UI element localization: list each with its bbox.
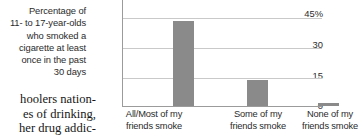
article-body-text: hoolers nation- es of drinking, her drug… (0, 92, 96, 136)
plot-area (122, 0, 322, 107)
caption-line: 11- to 17-year-olds (0, 17, 86, 29)
caption-line: once in the past (0, 54, 86, 66)
x-label-line: friends smoke (272, 121, 363, 133)
x-label-line: All/Most of my (92, 109, 216, 121)
body-text-line: her drug addic- (0, 121, 96, 136)
x-label-line: None of my (272, 109, 363, 121)
x-axis-category-label: None of my friends smoke (272, 109, 363, 132)
body-text-line: hoolers nation- (0, 92, 96, 107)
bar (173, 21, 194, 106)
caption-line: 30 days (0, 66, 86, 78)
x-axis-category-label: All/Most of my friends smoke (92, 109, 216, 132)
body-text-line: es of drinking, (0, 107, 96, 122)
caption-line: cigarette at least (0, 42, 86, 54)
bar (318, 103, 339, 106)
chart-caption: Percentage of 11- to 17-year-olds who sm… (0, 5, 86, 79)
left-text-column: Percentage of 11- to 17-year-olds who sm… (0, 0, 86, 138)
x-axis-labels: All/Most of my friends smoke Some of my … (122, 109, 322, 137)
bar (247, 80, 268, 106)
bar-chart: 45% 30 15 0 All/Most of my friends smoke… (86, 0, 323, 138)
x-label-line: friends smoke (92, 121, 216, 133)
caption-line: Percentage of (0, 5, 86, 17)
bar-series (122, 0, 322, 107)
caption-line: who smoked a (0, 30, 86, 42)
